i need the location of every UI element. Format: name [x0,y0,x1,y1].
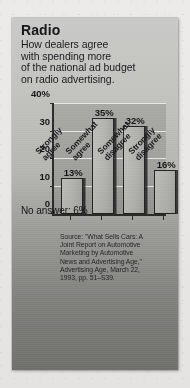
source-line-3: Marketing by Automotive [60,249,170,257]
deck-line-4: on radio advertising. [21,73,115,85]
magazine-chart-card: Radio How dealers agree with spending mo… [12,18,178,370]
ytick-label-30: 30 [39,115,50,126]
scanned-chart-page: Radio How dealers agree with spending mo… [0,0,190,388]
source-line-2: Joint Report on Automotive [60,241,170,249]
no-answer-annotation: No answer: 6% [21,205,88,216]
source-line-1: Source: "What Sells Cars: A [60,233,170,241]
deck-line-2: with spending more [21,50,111,62]
x-axis-labels: Strongly agree Somewhat agree Somewhat d… [26,144,176,190]
card-deck: How dealers agree with spending more of … [21,39,172,85]
source-line-5: Advertising Age, March 22, [60,266,170,274]
deck-line-3: of the national ad budget [21,61,135,73]
x-axis-ticks [52,216,166,234]
deck-line-1: How dealers agree [21,38,108,50]
source-line-4: News and Advertising Age," [60,258,170,266]
card-header: Radio How dealers agree with spending mo… [21,23,172,85]
ytick-label-40: 40% [31,88,50,99]
source-citation: Source: "What Sells Cars: A Joint Report… [60,233,170,282]
source-line-6: 1993, pp. 51–S39. [60,274,170,282]
bar-value-label: 35% [95,107,114,118]
page-title: Radio [21,23,172,38]
